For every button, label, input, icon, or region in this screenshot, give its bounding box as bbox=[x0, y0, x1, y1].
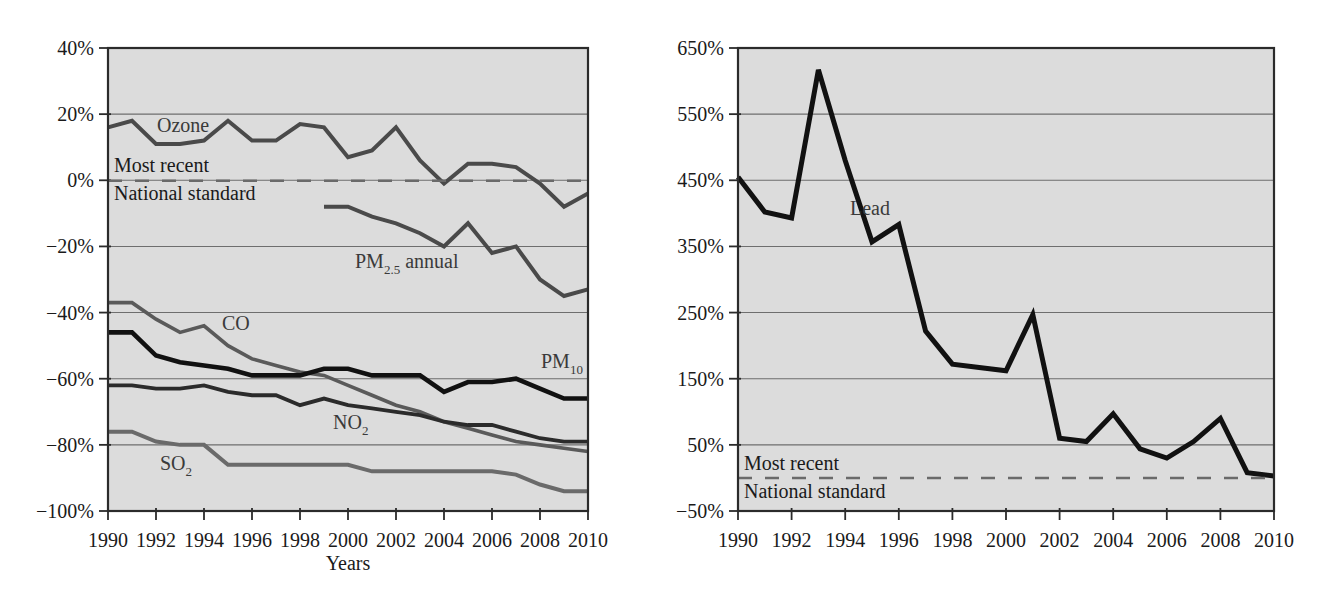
most-recent-label-right: Most recent bbox=[744, 452, 839, 474]
yaxis-tick-label: −20% bbox=[46, 235, 94, 257]
xaxis-tick-label: 1996 bbox=[879, 529, 919, 551]
xaxis-tick-label: 2008 bbox=[520, 529, 560, 551]
national-standard-label-right: National standard bbox=[744, 480, 886, 502]
xaxis-tick-labels-left: 1990199219941996199820002002200420062008… bbox=[88, 529, 608, 551]
xaxis-tick-label: 2006 bbox=[1147, 529, 1187, 551]
yaxis-tick-label: −80% bbox=[46, 434, 94, 456]
yaxis-tick-label: 350% bbox=[677, 235, 724, 257]
yaxis-tick-label: −40% bbox=[46, 302, 94, 324]
yaxis-tick-label: −100% bbox=[36, 500, 94, 522]
yaxis-tick-label: 40% bbox=[57, 37, 94, 59]
yaxis-tick-label: 0% bbox=[67, 169, 94, 191]
series-label-co: CO bbox=[222, 312, 250, 334]
series-label-lead: Lead bbox=[850, 197, 890, 219]
yaxis-tick-label: 450% bbox=[677, 169, 724, 191]
xaxis-tick-label: 1996 bbox=[232, 529, 272, 551]
figure-air-quality-trends: 40%20%0%−20%−40%−60%−80%−100% 1990199219… bbox=[0, 0, 1329, 599]
chart-panel-criteria-pollutants: 40%20%0%−20%−40%−60%−80%−100% 1990199219… bbox=[0, 0, 660, 599]
xaxis-tick-label: 2006 bbox=[472, 529, 512, 551]
yaxis-tick-label: 20% bbox=[57, 103, 94, 125]
yaxis-tick-labels-left: 40%20%0%−20%−40%−60%−80%−100% bbox=[36, 37, 94, 522]
xaxis-tick-label: 1994 bbox=[184, 529, 224, 551]
national-standard-label-left: National standard bbox=[114, 182, 256, 204]
most-recent-label-left: Most recent bbox=[114, 154, 209, 176]
xaxis-tick-label: 1998 bbox=[932, 529, 972, 551]
chart-panel-lead: 650%550%450%350%250%150%50%−50% 19901992… bbox=[660, 0, 1329, 599]
xaxis-tick-label: 2002 bbox=[1040, 529, 1080, 551]
xaxis-tick-label: 2010 bbox=[1254, 529, 1294, 551]
xaxis-tick-label: 2004 bbox=[1093, 529, 1133, 551]
yaxis-tick-label: 150% bbox=[677, 368, 724, 390]
series-label-ozone: Ozone bbox=[157, 114, 209, 136]
yaxis-tick-label: 50% bbox=[687, 434, 724, 456]
xaxis-tick-label: 1994 bbox=[825, 529, 865, 551]
xaxis-tick-label: 2010 bbox=[568, 529, 608, 551]
lead-svg: 650%550%450%350%250%150%50%−50% 19901992… bbox=[660, 0, 1329, 599]
xaxis-tick-labels-right: 1990199219941996199820002002200420062008… bbox=[718, 529, 1294, 551]
xaxis-tick-label: 2000 bbox=[328, 529, 368, 551]
criteria-pollutants-svg: 40%20%0%−20%−40%−60%−80%−100% 1990199219… bbox=[0, 0, 660, 599]
xaxis-tick-label: 2004 bbox=[424, 529, 464, 551]
xaxis-tick-label: 1992 bbox=[772, 529, 812, 551]
xaxis-tick-label: 1998 bbox=[280, 529, 320, 551]
xaxis-tick-label: 1990 bbox=[88, 529, 128, 551]
yaxis-tick-label: 250% bbox=[677, 302, 724, 324]
yaxis-tick-label: 550% bbox=[677, 103, 724, 125]
xaxis-tick-label: 2000 bbox=[986, 529, 1026, 551]
yaxis-tick-label: −60% bbox=[46, 368, 94, 390]
xaxis-tick-label: 2008 bbox=[1200, 529, 1240, 551]
yaxis-tick-label: 650% bbox=[677, 37, 724, 59]
yaxis-tick-label: −50% bbox=[676, 500, 724, 522]
yaxis-tick-labels-right: 650%550%450%350%250%150%50%−50% bbox=[676, 37, 724, 522]
xaxis-tick-label: 1990 bbox=[718, 529, 758, 551]
xaxis-title-left: Years bbox=[326, 552, 371, 574]
xaxis-tick-label: 1992 bbox=[136, 529, 176, 551]
xaxis-tick-label: 2002 bbox=[376, 529, 416, 551]
